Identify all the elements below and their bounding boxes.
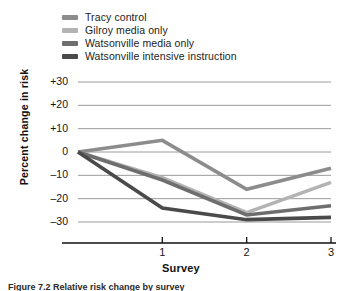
figure-caption: Figure 7.2 Relative risk change by surve… (8, 283, 338, 291)
y-tick-label: –20 (32, 193, 68, 204)
y-tick-label: –30 (32, 216, 68, 227)
series-line-1 (78, 152, 331, 213)
y-tick-label: +10 (32, 123, 68, 134)
x-tick-label: 2 (235, 246, 259, 258)
y-tick-label: –10 (32, 169, 68, 180)
x-tick-marks (162, 237, 331, 243)
x-tick-label: 1 (150, 246, 174, 258)
y-axis-title: Percent change in risk (18, 57, 30, 197)
y-tick-label: 0 (32, 146, 68, 157)
figure-caption-text: Figure 7.2 Relative risk change by surve… (8, 283, 338, 291)
gridlines (78, 82, 331, 222)
y-tick-label: +20 (32, 99, 68, 110)
y-tick-labels: +30+20+100–10–20–30 (28, 0, 68, 291)
series-line-2 (78, 152, 331, 215)
y-tick-label: +30 (32, 76, 68, 87)
x-tick-label: 3 (319, 246, 342, 258)
figure-container: Tracy control Gilroy media only Watsonvi… (0, 0, 342, 291)
x-axis-title: Survey (121, 262, 241, 274)
